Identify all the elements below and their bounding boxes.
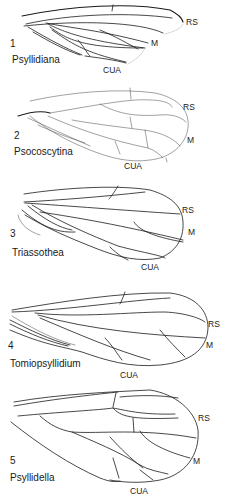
panel-number-1: 1 (10, 39, 16, 49)
vein-label-m-5: M (193, 457, 200, 466)
panel-number-3: 3 (10, 229, 16, 239)
taxon-name-4: Tomiopsyllidium (10, 359, 81, 369)
vein-label-rs-1: RS (186, 18, 198, 27)
vein-label-cua-4: CUA (120, 371, 138, 380)
panel-number-4: 4 (8, 341, 14, 351)
vein-label-m-2: M (187, 136, 194, 145)
vein-label-m-1: M (151, 39, 158, 48)
vein-label-cua-5: CUA (130, 487, 148, 496)
vein-label-m-4: M (206, 341, 213, 350)
taxon-name-3: Triassothea (12, 248, 64, 258)
taxon-name-2: Psocoscytina (14, 147, 73, 157)
vein-label-rs-5: RS (198, 414, 210, 423)
vein-label-m-3: M (188, 228, 195, 237)
vein-label-rs-2: RS (183, 103, 195, 112)
vein-label-cua-3: CUA (141, 263, 159, 272)
vein-label-cua-2: CUA (124, 162, 142, 171)
wing-4-tomiopsyllidium (10, 292, 208, 366)
panel-number-2: 2 (14, 131, 20, 141)
wing-5-psyllidella (11, 390, 198, 482)
panel-number-5: 5 (10, 456, 16, 466)
taxon-name-1: Psyllidiana (12, 55, 60, 65)
vein-label-rs-4: RS (208, 320, 220, 329)
vein-label-cua-1: CUA (103, 66, 121, 75)
taxon-name-5: Psyllidella (10, 473, 54, 483)
vein-label-rs-3: RS (182, 206, 194, 215)
